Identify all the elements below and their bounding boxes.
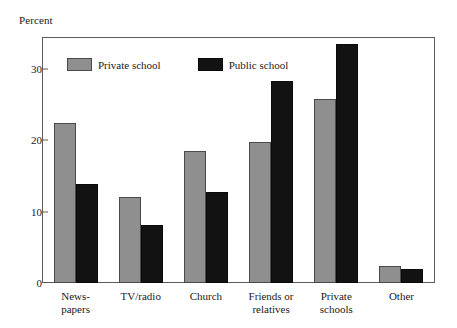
bar-public xyxy=(271,81,293,283)
bar-private xyxy=(249,142,271,283)
bar-chart: Percent 0102030 Private schoolPublic sch… xyxy=(0,0,457,328)
bar-private xyxy=(314,99,336,283)
x-category-label: Church xyxy=(173,290,238,303)
x-category-label: Friends or relatives xyxy=(239,290,304,316)
y-tick-label: 20 xyxy=(16,135,42,146)
legend-item: Private school xyxy=(67,58,161,71)
bar-private xyxy=(184,151,206,283)
plot-area xyxy=(43,38,434,283)
bar-public xyxy=(401,269,423,283)
bar-public xyxy=(141,225,163,283)
x-category-label: TV/radio xyxy=(108,290,173,303)
y-tick-label: 30 xyxy=(16,63,42,74)
bar-private xyxy=(119,197,141,283)
y-axis: 0102030 xyxy=(0,0,42,328)
bar-public xyxy=(336,44,358,283)
legend-swatch-public xyxy=(198,58,223,71)
x-category-label: Other xyxy=(369,290,434,303)
bar-private xyxy=(379,266,401,283)
x-category-label: News- papers xyxy=(43,290,108,316)
y-tick-mark xyxy=(42,140,48,141)
bar-private xyxy=(54,123,76,283)
legend-item: Public school xyxy=(198,58,289,71)
legend-label: Private school xyxy=(98,59,161,71)
legend-label: Public school xyxy=(229,59,289,71)
y-tick-label: 10 xyxy=(16,206,42,217)
legend: Private schoolPublic school xyxy=(67,58,288,71)
y-tick-label: 0 xyxy=(16,278,42,289)
bar-public xyxy=(76,184,98,283)
y-tick-mark xyxy=(42,211,48,212)
legend-swatch-private xyxy=(67,58,92,71)
x-category-label: Private schools xyxy=(304,290,369,316)
bar-public xyxy=(206,192,228,283)
y-tick-mark xyxy=(42,68,48,69)
